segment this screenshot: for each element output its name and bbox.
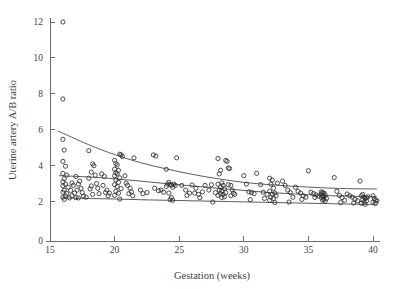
data-point: [275, 181, 279, 185]
data-point: [287, 200, 291, 204]
data-point: [79, 186, 83, 190]
x-tick-label: 30: [239, 245, 249, 255]
y-tick-label: 12: [34, 17, 44, 27]
data-point: [187, 191, 191, 195]
data-point: [61, 20, 65, 24]
x-tick-label: 40: [368, 245, 378, 255]
data-point: [291, 195, 295, 199]
data-point: [200, 190, 204, 194]
data-point: [190, 183, 194, 187]
data-point: [93, 173, 97, 177]
data-point: [185, 193, 189, 197]
y-tick-label: 2: [38, 197, 43, 207]
y-axis-title: Uterine artery A/B ratio: [7, 80, 18, 180]
data-point: [61, 97, 65, 101]
data-point: [293, 185, 297, 189]
data-point: [87, 149, 91, 153]
data-point: [89, 170, 93, 174]
data-point: [269, 182, 273, 186]
data-point: [211, 200, 215, 204]
data-point: [194, 186, 198, 190]
data-point: [255, 171, 259, 175]
centile-curve-lower-5th-centile: [62, 198, 377, 205]
y-tick-label: 10: [34, 53, 44, 63]
axes: [46, 18, 380, 241]
scatter-plot-figure: 024681012 152025303540 Gestation (weeks)…: [0, 0, 403, 289]
data-point: [119, 187, 123, 191]
x-axis-ticks: 152025303540: [45, 236, 378, 255]
data-point: [101, 183, 105, 187]
data-point: [342, 198, 346, 202]
data-point: [271, 186, 275, 190]
data-point: [100, 172, 104, 176]
data-point: [113, 193, 117, 197]
centile-curve-upper-95th-centile: [58, 131, 377, 189]
data-point: [207, 188, 211, 192]
data-point: [154, 154, 158, 158]
data-point: [216, 156, 220, 160]
data-point: [262, 196, 266, 200]
data-point: [132, 156, 136, 160]
data-point: [248, 198, 252, 202]
data-point: [229, 183, 233, 187]
data-point: [167, 191, 171, 195]
chart-canvas: 024681012 152025303540 Gestation (weeks)…: [0, 0, 403, 289]
data-point: [306, 169, 310, 173]
data-point: [175, 156, 179, 160]
data-point: [332, 175, 336, 179]
data-point: [62, 148, 66, 152]
x-tick-label: 15: [45, 245, 55, 255]
data-point: [280, 179, 284, 183]
data-point: [131, 194, 135, 198]
data-point: [94, 182, 98, 186]
y-tick-label: 6: [38, 125, 43, 135]
data-point: [358, 179, 362, 183]
y-axis-ticks: 024681012: [34, 17, 56, 246]
data-point: [97, 192, 101, 196]
data-point: [151, 153, 155, 157]
y-tick-label: 0: [38, 236, 43, 246]
data-point: [61, 159, 65, 163]
x-tick-label: 35: [304, 245, 314, 255]
data-point: [184, 188, 188, 192]
data-point: [335, 189, 339, 193]
data-point: [259, 183, 263, 187]
data-point: [96, 186, 100, 190]
data-point: [286, 188, 290, 192]
data-point: [252, 192, 256, 196]
data-point: [229, 194, 233, 198]
data-point: [63, 164, 67, 168]
x-axis-title: Gestation (weeks): [174, 270, 251, 282]
data-point: [116, 180, 120, 184]
data-point: [69, 188, 73, 192]
data-point: [123, 174, 127, 178]
y-tick-label: 4: [38, 161, 43, 171]
data-point: [209, 183, 213, 187]
x-tick-label: 20: [110, 245, 120, 255]
data-point: [153, 186, 157, 190]
x-tick-label: 25: [174, 245, 184, 255]
data-point: [242, 174, 246, 178]
data-point: [145, 190, 149, 194]
data-point: [91, 192, 95, 196]
y-tick-label: 8: [38, 89, 43, 99]
data-point: [61, 137, 65, 141]
